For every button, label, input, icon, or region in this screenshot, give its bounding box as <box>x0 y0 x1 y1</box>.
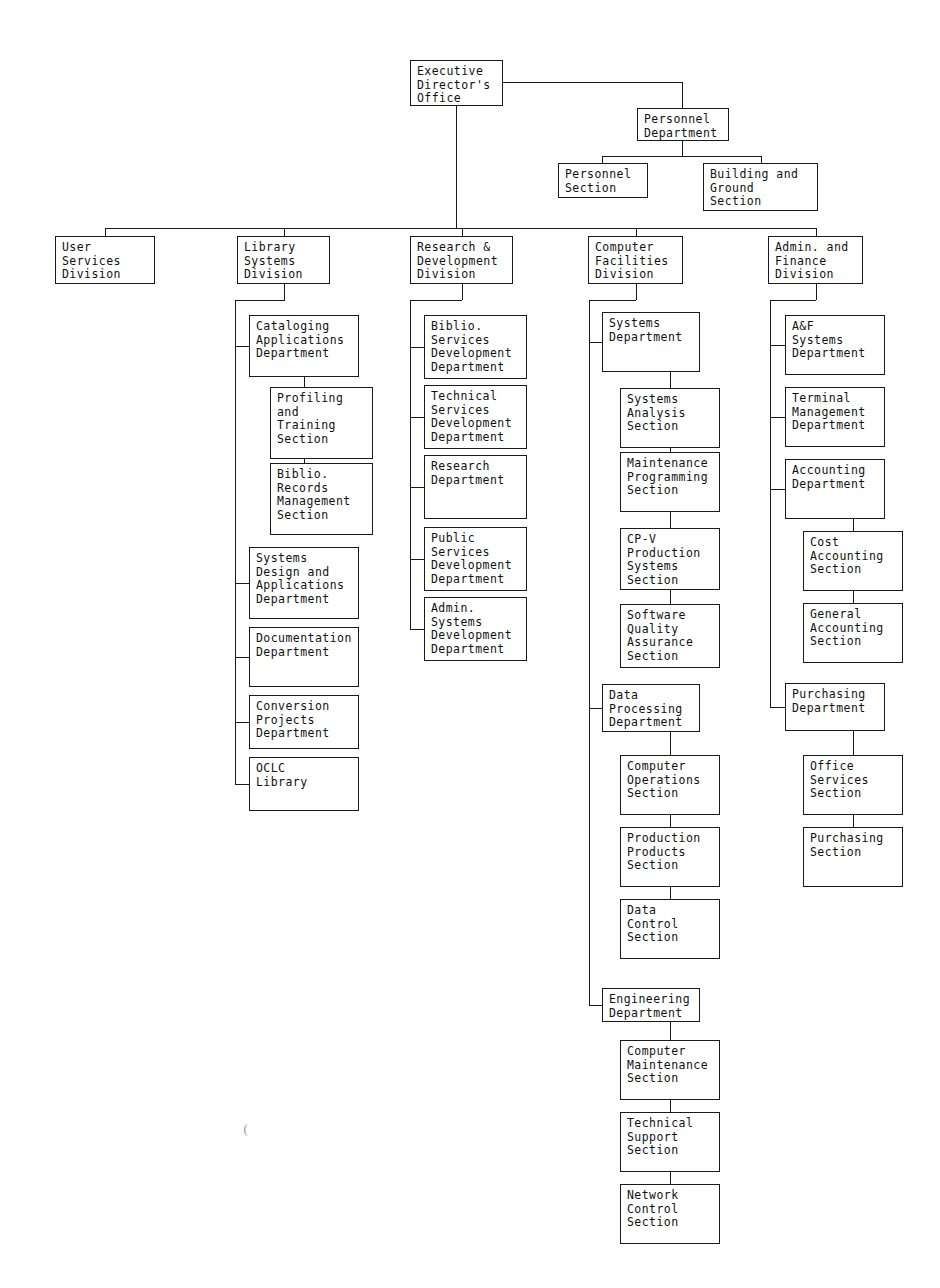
org-node-general_acct[interactable]: GeneralAccountingSection <box>803 603 903 663</box>
exec-main-stem <box>456 106 457 229</box>
org-node-office_serv[interactable]: OfficeServicesSection <box>803 755 903 815</box>
org-node-label-line: Section <box>627 859 719 873</box>
org-node-label-line: Control <box>627 1203 719 1217</box>
org-node-rd_div[interactable]: Research &DevelopmentDivision <box>410 236 513 284</box>
org-node-label-line: Technical <box>627 1117 719 1131</box>
org-node-label-line: Maintenance <box>627 1059 719 1073</box>
org-node-label-line: Engineering <box>609 993 699 1007</box>
org-node-user_div[interactable]: UserServicesDivision <box>55 236 155 284</box>
org-node-label-line: Office <box>417 92 502 106</box>
af-tap-afsys <box>770 345 785 346</box>
org-node-comp_maint[interactable]: ComputerMaintenanceSection <box>620 1040 720 1100</box>
org-node-conversion[interactable]: ConversionProjectsDepartment <box>249 695 359 749</box>
org-node-sys_design[interactable]: SystemsDesign andApplicationsDepartment <box>249 547 359 619</box>
org-node-tech_serv[interactable]: TechnicalServicesDevelopmentDepartment <box>424 385 527 449</box>
org-node-profiling[interactable]: ProfilingandTrainingSection <box>270 387 373 459</box>
org-node-lib_div[interactable]: LibrarySystemsDivision <box>237 236 330 284</box>
org-node-exec[interactable]: ExecutiveDirector'sOffice <box>410 60 503 106</box>
org-node-data_proc[interactable]: DataProcessingDepartment <box>602 684 700 732</box>
org-node-personnel_dept[interactable]: PersonnelDepartment <box>637 108 729 141</box>
org-node-purch_sec[interactable]: PurchasingSection <box>803 827 903 887</box>
lib-tap-conversion <box>235 722 250 723</box>
org-node-network_ctrl[interactable]: NetworkControlSection <box>620 1184 720 1244</box>
org-node-oclc[interactable]: OCLCLibrary <box>249 757 359 811</box>
org-node-label-line: Department <box>609 331 699 345</box>
org-node-label-line: Executive <box>417 65 502 79</box>
org-node-label-line: Cost <box>810 536 902 550</box>
org-node-cf_div[interactable]: ComputerFacilitiesDivision <box>588 236 683 284</box>
org-node-label-line: Section <box>627 1216 719 1230</box>
prodprod-datactrl-link <box>670 887 671 899</box>
org-node-label-line: Building and <box>710 168 817 182</box>
org-node-data_ctrl[interactable]: DataControlSection <box>620 899 720 959</box>
org-node-label-line: Cataloging <box>256 320 358 334</box>
org-node-public_serv[interactable]: PublicServicesDevelopmentDepartment <box>424 527 527 591</box>
org-node-label-line: Programming <box>627 471 719 485</box>
cf-spine <box>589 300 590 1006</box>
org-node-sys_analysis[interactable]: SystemsAnalysisSection <box>620 388 720 448</box>
org-node-cat_app[interactable]: CatalogingApplicationsDepartment <box>249 315 359 377</box>
org-node-label-line: Operations <box>627 774 719 788</box>
org-node-label-line: Section <box>277 509 372 523</box>
org-node-documentation[interactable]: DocumentationDepartment <box>249 627 359 687</box>
org-node-label-line: Accounting <box>810 622 902 636</box>
org-node-biblio_rec[interactable]: Biblio.RecordsManagementSection <box>270 463 373 535</box>
org-node-label-line: Department <box>256 727 358 741</box>
personnel-dept-stem <box>682 141 683 156</box>
org-node-label-line: Department <box>431 643 526 657</box>
compmaint-techsup-link <box>670 1100 671 1112</box>
org-node-label-line: Services <box>431 404 526 418</box>
org-node-cost_acct[interactable]: CostAccountingSection <box>803 531 903 591</box>
org-node-label-line: Development <box>431 629 526 643</box>
org-node-research_dept[interactable]: ResearchDepartment <box>424 455 527 519</box>
org-node-label-line: Division <box>595 268 682 282</box>
org-node-label-line: Systems <box>792 334 884 348</box>
org-node-personnel_sec[interactable]: PersonnelSection <box>558 163 648 198</box>
org-node-biblio_serv[interactable]: Biblio.ServicesDevelopmentDepartment <box>424 315 527 379</box>
org-node-sqa[interactable]: SoftwareQualityAssuranceSection <box>620 604 720 668</box>
org-node-tech_support[interactable]: TechnicalSupportSection <box>620 1112 720 1172</box>
lib-tap-cataloging <box>235 346 250 347</box>
techsup-network-link <box>670 1172 671 1184</box>
org-node-prod_prod[interactable]: ProductionProductsSection <box>620 827 720 887</box>
org-node-label-line: Development <box>431 347 526 361</box>
org-node-engineering[interactable]: EngineeringDepartment <box>602 988 700 1022</box>
org-node-label-line: Ground <box>710 182 817 196</box>
org-node-label-line: Development <box>431 559 526 573</box>
org-node-label-line: Library <box>244 241 329 255</box>
org-node-label-line: Development <box>417 255 512 269</box>
org-node-comp_ops[interactable]: ComputerOperationsSection <box>620 755 720 815</box>
org-node-terminal_mgmt[interactable]: TerminalManagementDepartment <box>785 387 885 447</box>
org-node-af_div[interactable]: Admin. andFinanceDivision <box>768 236 863 284</box>
af-div-stem <box>816 284 817 300</box>
org-node-label-line: Section <box>627 1072 719 1086</box>
org-node-label-line: Purchasing <box>792 688 884 702</box>
org-node-accounting[interactable]: AccountingDepartment <box>785 459 885 519</box>
cf-tap-dataproc <box>589 708 603 709</box>
org-node-label-line: Systems <box>627 393 719 407</box>
org-node-label-line: Section <box>627 1144 719 1158</box>
org-node-label-line: Section <box>277 433 372 447</box>
rd-spine <box>410 300 411 629</box>
org-node-label-line: Facilities <box>595 255 682 269</box>
org-node-admin_sys[interactable]: Admin.SystemsDevelopmentDepartment <box>424 597 527 661</box>
org-node-label-line: Purchasing <box>810 832 902 846</box>
org-node-label-line: Department <box>431 474 526 488</box>
org-node-af_sys[interactable]: A&FSystemsDepartment <box>785 315 885 375</box>
org-node-label-line: Management <box>277 495 372 509</box>
lib-spine-elbow <box>235 300 285 301</box>
org-node-cpv[interactable]: CP-VProductionSystemsSection <box>620 528 720 590</box>
exec-to-personnel-horizontal <box>503 82 683 83</box>
org-node-label-line: Terminal <box>792 392 884 406</box>
org-node-sys_dept[interactable]: SystemsDepartment <box>602 312 700 372</box>
org-node-label-line: Division <box>244 268 329 282</box>
org-node-maint_prog[interactable]: MaintenanceProgrammingSection <box>620 452 720 512</box>
org-node-label-line: Processing <box>609 703 699 717</box>
org-node-label-line: Production <box>627 547 719 561</box>
org-node-label-line: and <box>277 406 372 420</box>
maint-cpv-link <box>670 512 671 528</box>
org-node-building_sec[interactable]: Building andGroundSection <box>703 163 818 211</box>
org-node-purch_dept[interactable]: PurchasingDepartment <box>785 683 885 731</box>
org-node-label-line: Division <box>775 268 862 282</box>
dataproc-stem <box>670 732 671 755</box>
